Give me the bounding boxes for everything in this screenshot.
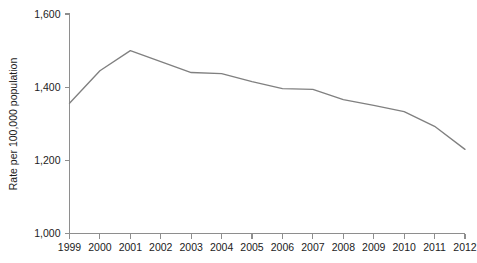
x-tick-label: 2009 — [362, 241, 386, 253]
x-tick-label: 2008 — [332, 241, 356, 253]
x-tick-label: 2011 — [423, 241, 446, 253]
y-tick-label: 1,600 — [34, 8, 60, 20]
x-tick-label: 2012 — [453, 241, 477, 253]
chart-canvas: 1,0001,2001,4001,600 1999200020012002200… — [0, 0, 477, 263]
x-tick-label: 2005 — [240, 241, 264, 253]
x-tick-label: 1999 — [58, 241, 82, 253]
x-tick-label: 2002 — [149, 241, 173, 253]
x-tick-label: 2004 — [210, 241, 234, 253]
x-tick-label: 2000 — [88, 241, 112, 253]
x-tick-label: 2003 — [180, 241, 204, 253]
y-tick-label: 1,400 — [34, 81, 60, 93]
line-chart: 1,0001,2001,4001,600 1999200020012002200… — [0, 0, 477, 263]
x-tick-label: 2010 — [392, 241, 416, 253]
x-tick-label: 2007 — [301, 241, 325, 253]
y-tick-label: 1,000 — [34, 227, 60, 239]
y-axis-label: Rate per 100,000 population — [7, 58, 19, 191]
y-tick-label: 1,200 — [34, 154, 60, 166]
chart-background — [0, 0, 477, 263]
x-tick-label: 2006 — [271, 241, 295, 253]
x-tick-label: 2001 — [119, 241, 143, 253]
